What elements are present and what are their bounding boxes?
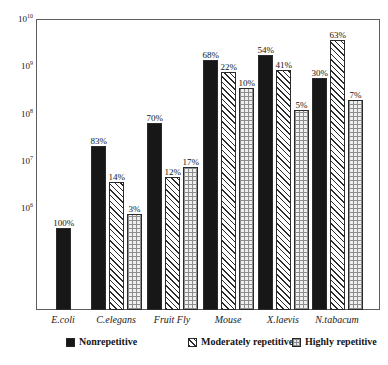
bar: 30%	[312, 78, 327, 310]
y-tick-base: 10	[18, 14, 27, 24]
legend-swatch-icon	[188, 338, 197, 347]
y-axis: 1061071081091010	[0, 0, 36, 365]
x-axis-label-e-coli: E.coli	[51, 313, 75, 327]
bar-value-label: 70%	[146, 113, 163, 123]
y-axis-tick-label: 108	[21, 109, 33, 118]
bar: 100%	[56, 228, 71, 310]
bar-value-label: 30%	[311, 68, 328, 78]
y-tick-base: 10	[21, 203, 30, 213]
bar: 5%	[294, 110, 309, 310]
bar-value-label: 12%	[164, 167, 181, 177]
chart-legend: NonrepetitiveModerately repetitiveHighly…	[36, 336, 380, 354]
x-axis-label-n-tabacum: N.tabacum	[315, 313, 359, 327]
y-tick-exponent: 6	[30, 202, 33, 208]
bar: 10%	[239, 88, 254, 310]
bar-value-label: 7%	[349, 90, 361, 100]
y-axis-tick-label: 109	[21, 62, 33, 71]
bar: 7%	[348, 100, 363, 310]
y-axis-tick-label: 1010	[18, 15, 33, 24]
bar-value-label: 14%	[108, 172, 125, 182]
bar: 54%	[258, 55, 273, 310]
bar-value-label: 41%	[275, 60, 292, 70]
bar-value-label: 63%	[329, 30, 346, 40]
bar-value-label: 22%	[220, 62, 237, 72]
legend-label: Moderately repetitive	[201, 336, 293, 348]
bar: 68%	[203, 60, 218, 310]
x-axis-label-x-laevis: X.laevis	[267, 313, 299, 327]
bar: 63%	[330, 40, 345, 310]
legend-label: Nonrepetitive	[79, 336, 137, 348]
legend-swatch-icon	[66, 338, 75, 347]
legend-item-moderately-repetitive: Moderately repetitive	[188, 336, 293, 348]
bars-layer: 100%83%14%3%70%12%17%68%22%10%54%41%5%30…	[36, 19, 380, 310]
x-axis-label-c-elegans: C.elegans	[96, 313, 136, 327]
bar: 3%	[127, 214, 142, 310]
y-tick-exponent: 7	[30, 154, 33, 160]
y-tick-exponent: 9	[30, 60, 33, 66]
bar: 22%	[221, 72, 236, 310]
y-axis-tick-label: 107	[21, 156, 33, 165]
x-axis-category-labels: E.coliC.elegansFruit FlyMouseX.laevisN.t…	[36, 313, 380, 329]
y-tick-base: 10	[21, 61, 30, 71]
y-tick-exponent: 8	[30, 107, 33, 113]
bar: 14%	[109, 182, 124, 310]
bar: 83%	[91, 146, 106, 310]
genome-composition-bar-chart: 1061071081091010 100%83%14%3%70%12%17%68…	[0, 0, 388, 365]
bar-value-label: 17%	[182, 157, 199, 167]
bar-value-label: 83%	[90, 136, 107, 146]
legend-item-nonrepetitive: Nonrepetitive	[66, 336, 137, 348]
bar-value-label: 10%	[238, 78, 255, 88]
legend-item-highly-repetitive: Highly repetitive	[292, 336, 377, 348]
y-tick-base: 10	[21, 108, 30, 118]
y-tick-exponent: 10	[27, 13, 33, 19]
bar: 12%	[165, 177, 180, 310]
legend-label: Highly repetitive	[305, 336, 377, 348]
x-axis-label-fruit-fly: Fruit Fly	[154, 313, 190, 327]
y-tick-base: 10	[21, 155, 30, 165]
legend-swatch-icon	[292, 338, 301, 347]
y-axis-tick-label: 106	[21, 204, 33, 213]
x-axis-label-mouse: Mouse	[215, 313, 242, 327]
bar: 17%	[183, 167, 198, 310]
bar-value-label: 68%	[202, 50, 219, 60]
bar: 41%	[276, 70, 291, 310]
bar-value-label: 100%	[53, 218, 74, 228]
bar-value-label: 54%	[257, 45, 274, 55]
bar-value-label: 5%	[295, 100, 307, 110]
bar-value-label: 3%	[128, 204, 140, 214]
bar: 70%	[147, 123, 162, 310]
